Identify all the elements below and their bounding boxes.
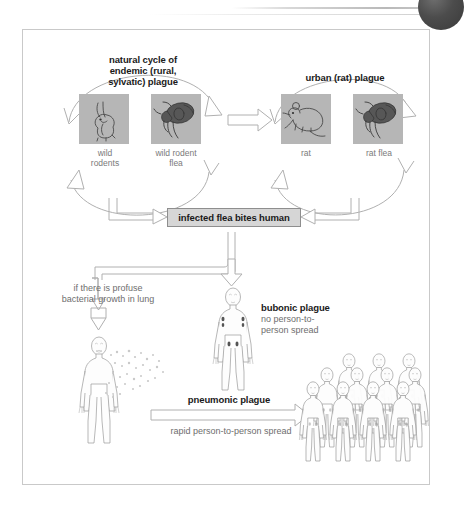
bubo-marks-icon [222, 317, 245, 347]
wild-rodent-photo [79, 94, 129, 144]
header-rule-top [232, 7, 452, 9]
sylvatic-cycle-bottom-arc [67, 160, 219, 215]
human-body-with-buboes-icon [213, 288, 253, 390]
respiratory-droplets-icon [105, 350, 164, 398]
figure-frame: natural cycle of endemic (rural, sylvati… [22, 29, 430, 485]
split-to-bubonic [221, 259, 242, 286]
rat-caption: rat [281, 148, 331, 158]
bubonic-plague-subtitle: no person-to- person spread [261, 314, 371, 335]
corner-badge-icon [418, 0, 464, 30]
pneumonic-plague-subtitle: rapid person-to-person spread [141, 426, 321, 437]
crowd-of-people [301, 352, 427, 476]
crowd-row-middle [313, 368, 428, 447]
box-down-stem [228, 232, 235, 259]
rat-icon [281, 94, 331, 144]
rat-photo [281, 94, 331, 144]
rat-flea-photo [353, 94, 403, 144]
sylvatic-cycle-label: natural cycle of endemic (rural, sylvati… [85, 54, 201, 88]
header-rule-bottom [150, 14, 452, 15]
flea-icon [353, 94, 403, 144]
urban-cycle-label: urban (rat) plague [285, 72, 405, 83]
wild-rodent-flea-caption: wild rodent flea [143, 148, 209, 168]
urban-cycle-bottom-arc [271, 158, 414, 215]
bubonic-human-figure [209, 286, 257, 396]
pneumonic-spread-arrow [151, 404, 309, 426]
wild-rodent-caption: wild rodents [75, 148, 135, 168]
pneumonic-plague-title: pneumonic plague [149, 394, 309, 405]
rat-flea-caption: rat flea [353, 148, 405, 158]
hook-right-into-box [301, 198, 359, 224]
hook-left-into-box [109, 198, 167, 224]
crowd-row-back [335, 354, 422, 433]
flea-icon [151, 94, 201, 144]
bubonic-plague-title: bubonic plague [261, 302, 381, 313]
wild-rodent-flea-photo [151, 94, 201, 144]
cycle-link-arrow [228, 109, 272, 131]
rabbit-icon [79, 94, 129, 144]
infected-flea-bites-human-box[interactable]: infected flea bites human [167, 208, 301, 227]
crowd-row-front [299, 382, 416, 461]
pneumonic-condition-text: if there is profuse bacterial growth in … [33, 283, 183, 304]
